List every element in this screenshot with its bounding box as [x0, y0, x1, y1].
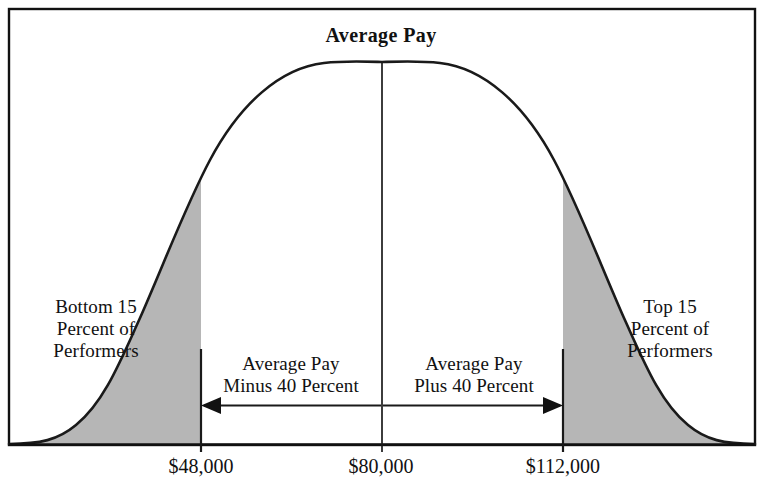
- x-tick-label-high: $112,000: [483, 455, 643, 478]
- plus-range-label: Average Pay Plus 40 Percent: [388, 353, 560, 397]
- chart-title: Average Pay: [240, 24, 522, 47]
- bell-curve-figure: Average Pay Bottom 15 Percent of Perform…: [0, 0, 763, 501]
- plus-range-arrow: [383, 397, 563, 414]
- minus-range-label: Average Pay Minus 40 Percent: [205, 353, 377, 397]
- x-tick-label-mean: $80,000: [301, 455, 461, 478]
- distribution-chart: [0, 0, 763, 501]
- minus-range-arrow: [201, 397, 381, 414]
- bottom-tail-label: Bottom 15 Percent of Performers: [20, 296, 172, 362]
- x-tick-label-low: $48,000: [121, 455, 281, 478]
- top-tail-label: Top 15 Percent of Performers: [594, 296, 746, 362]
